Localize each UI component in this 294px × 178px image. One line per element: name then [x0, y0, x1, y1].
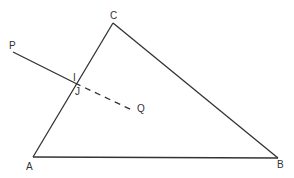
segment-jq-dashed [75, 83, 134, 111]
segment-ab [33, 157, 278, 158]
label-i: I [73, 72, 76, 83]
segment-ca [33, 23, 113, 157]
label-c: C [110, 10, 117, 21]
triangle-abc [33, 23, 278, 158]
label-b: B [277, 159, 284, 170]
segment-pi [13, 52, 75, 83]
segment-bc [113, 23, 278, 158]
label-a: A [26, 161, 33, 172]
label-p: P [9, 40, 16, 51]
label-j: J [75, 86, 80, 97]
geometry-diagram: C P I J Q A B [0, 0, 294, 178]
label-q: Q [137, 103, 145, 114]
